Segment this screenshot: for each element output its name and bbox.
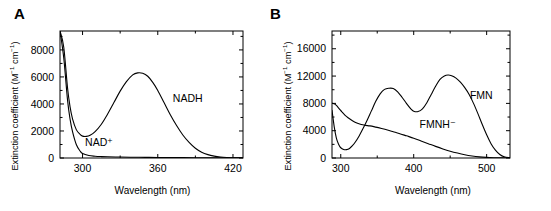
- panel-a-x-axis-label: Wavelength (nm): [60, 185, 245, 196]
- y-tick-label: 4000: [31, 98, 55, 110]
- y-tick-label: 8000: [31, 44, 55, 56]
- series-line-fmnh-: [332, 103, 510, 158]
- panel-b-plot: 3004005000400080001200016000FMNFMNH⁻: [275, 0, 551, 211]
- y-tick-label: 2000: [31, 125, 55, 137]
- x-tick-label: 300: [332, 162, 350, 174]
- x-tick-label: 400: [405, 162, 423, 174]
- x-tick-label: 420: [224, 162, 242, 174]
- y-tick-label: 0: [320, 152, 326, 164]
- y-tick-label: 16000: [297, 42, 326, 54]
- y-tick-label: 12000: [297, 70, 326, 82]
- x-tick-label: 500: [478, 162, 496, 174]
- series-annotation: NAD⁺: [85, 136, 113, 148]
- panel-a-plot: 30036042002000400060008000NADHNAD⁺: [0, 0, 276, 211]
- series-line-fmn: [332, 75, 510, 158]
- panel-b-x-axis-label: Wavelength (nm): [333, 185, 533, 196]
- panel-a: A Extinction coefficient (M−1 cm−1) 3003…: [0, 0, 276, 211]
- y-tick-label: 8000: [303, 97, 327, 109]
- y-tick-label: 4000: [303, 124, 327, 136]
- series-annotation: NADH: [173, 92, 203, 104]
- panel-b: B Extinction coefficient (M−1 cm−1) 3004…: [275, 0, 551, 211]
- y-tick-label: 0: [48, 152, 54, 164]
- x-tick-label: 300: [74, 162, 92, 174]
- y-tick-label: 6000: [31, 71, 55, 83]
- figure-absorption-spectra: A Extinction coefficient (M−1 cm−1) 3003…: [0, 0, 551, 211]
- x-tick-label: 360: [149, 162, 167, 174]
- series-annotation: FMNH⁻: [420, 118, 456, 130]
- series-annotation: FMN: [470, 89, 493, 101]
